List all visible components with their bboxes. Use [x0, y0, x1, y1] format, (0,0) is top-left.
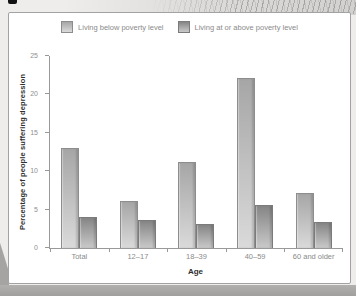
x-axis-title: Age — [49, 267, 342, 276]
bar-below-poverty — [178, 162, 196, 248]
legend-swatch-below-poverty — [61, 21, 73, 33]
plot-area: Total12–1718–3940–5960 and older — [49, 56, 343, 249]
x-tick-mark — [50, 248, 51, 252]
y-tick-label: 20 — [30, 90, 38, 97]
bar-group: 18–39 — [167, 56, 226, 248]
x-tick-mark — [226, 248, 227, 252]
bar-above-poverty — [138, 220, 156, 248]
bar-below-poverty — [296, 193, 314, 248]
y-tick-label: 25 — [30, 52, 38, 59]
legend-item-above-poverty: Living at or above poverty level — [178, 21, 298, 33]
legend-label: Living at or above poverty level — [195, 23, 298, 32]
bar-group: 12–17 — [109, 56, 168, 248]
y-tick-mark — [45, 55, 49, 56]
chart-legend: Living below poverty level Living at or … — [9, 21, 350, 33]
x-tick-mark — [284, 248, 285, 252]
x-category-label: 60 and older — [278, 252, 349, 261]
bar-below-poverty — [61, 148, 79, 248]
bar-groups: Total12–1718–3940–5960 and older — [50, 56, 343, 248]
x-tick-mark — [109, 248, 110, 252]
bar-group: 60 and older — [284, 56, 343, 248]
y-tick-label: 0 — [34, 244, 38, 251]
y-axis-tick-labels: 0510152025 — [9, 56, 45, 248]
cropped-glyph-mark — [8, 0, 17, 4]
y-tick-mark — [45, 209, 49, 210]
y-tick-mark — [45, 132, 49, 133]
y-tick-label: 10 — [30, 167, 38, 174]
x-tick-mark — [342, 248, 343, 252]
legend-item-below-poverty: Living below poverty level — [61, 21, 163, 33]
y-tick-mark — [45, 247, 49, 248]
desk-surface-band — [0, 285, 356, 296]
x-tick-mark — [167, 248, 168, 252]
legend-label: Living below poverty level — [78, 23, 163, 32]
y-tick-mark — [45, 93, 49, 94]
chart-figure-card: Living below poverty level Living at or … — [8, 12, 351, 284]
bar-below-poverty — [120, 201, 138, 248]
y-tick-label: 5 — [34, 206, 38, 213]
bar-above-poverty — [255, 205, 273, 248]
bar-above-poverty — [196, 224, 214, 248]
bar-below-poverty — [237, 78, 255, 248]
y-tick-label: 15 — [30, 129, 38, 136]
legend-swatch-above-poverty — [178, 21, 190, 33]
bar-above-poverty — [314, 222, 332, 248]
y-tick-mark — [45, 170, 49, 171]
page-background: { "chart_data": { "type": "bar", "title"… — [0, 0, 356, 296]
bar-above-poverty — [79, 217, 97, 248]
bar-group: Total — [50, 56, 109, 248]
bar-group: 40–59 — [226, 56, 285, 248]
